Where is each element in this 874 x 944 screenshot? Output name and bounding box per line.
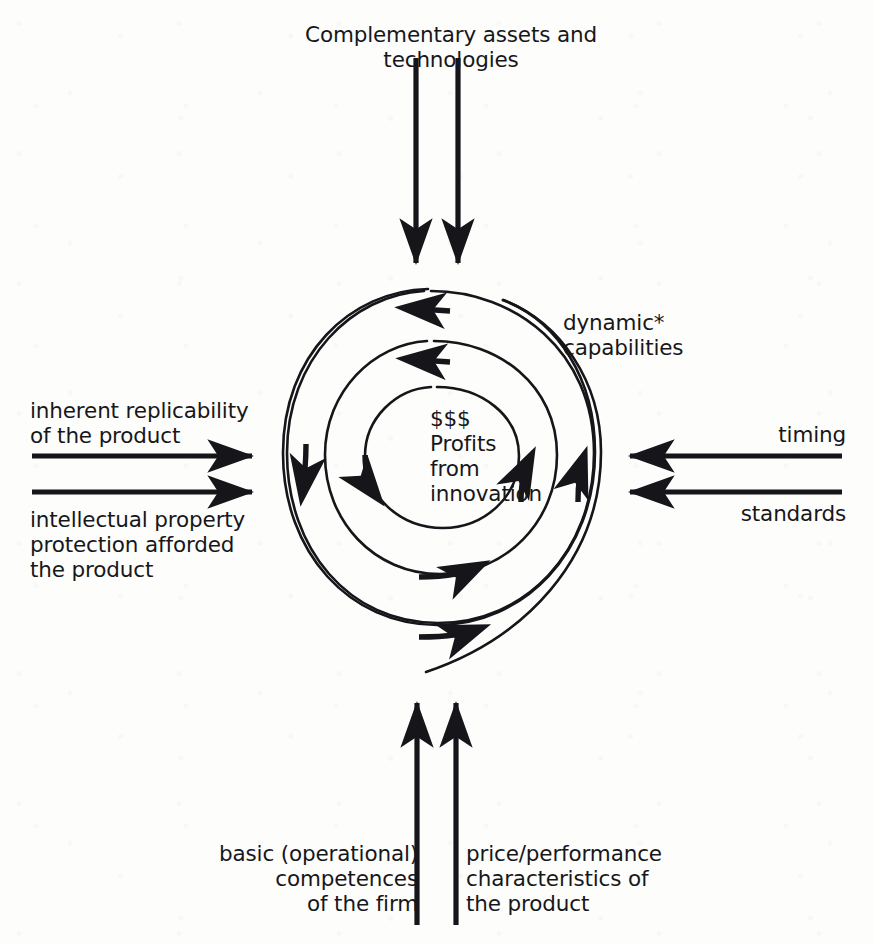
flow-arrow-bottom-inner xyxy=(419,565,481,577)
flow-arrow-top-outer xyxy=(405,308,450,311)
label-dynamic-capabilities: dynamic* capabilities xyxy=(563,310,743,360)
label-standards: standards xyxy=(690,501,846,526)
label-timing: timing xyxy=(700,422,846,447)
flow-arrow-bottom-outer xyxy=(419,628,481,637)
flow-arrow-left-inner xyxy=(365,455,378,498)
flow-arrow-top-inner xyxy=(406,359,450,362)
label-complementary-assets: Complementary assets and technologies xyxy=(261,22,641,72)
label-price-performance: price/performance characteristics of the… xyxy=(466,841,696,916)
flow-arrow-left-outer xyxy=(302,444,306,496)
label-inherent-replicability: inherent replicability of the product xyxy=(30,398,280,448)
label-basic-competences: basic (operational) competences of the f… xyxy=(175,841,418,916)
label-profits-from-innovation: $$$ Profits from innovation xyxy=(430,406,590,506)
diagram-canvas: Complementary assets and technologies in… xyxy=(0,0,874,944)
label-ip-protection: intellectual property protection afforde… xyxy=(30,507,285,582)
